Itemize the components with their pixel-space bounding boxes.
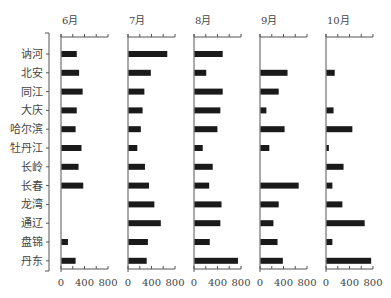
bar [261,107,267,113]
bar [261,183,299,189]
category-label: 丹东 [21,255,43,268]
bar [261,258,283,264]
bar [129,51,168,57]
category-label: 长春 [21,180,43,193]
x-tick-label: 0 [257,277,263,288]
category-label: 长岭 [21,160,43,174]
x-tick-label: 800 [231,277,250,288]
chart: 讷河北安同江大庆哈尔滨牡丹江长岭长春龙湾通辽盘锦丹东6月04008007月040… [0,0,391,298]
bar [261,239,278,245]
bar [62,164,79,170]
bar [129,183,150,189]
bar [62,239,68,245]
bar [62,70,80,76]
bar [129,164,145,170]
bar [129,89,145,95]
bar [195,126,218,132]
panel-title: 9月 [261,15,277,26]
x-tick-label: 0 [58,277,64,288]
bar [62,126,76,132]
bar [261,220,274,226]
x-tick-label: 800 [363,277,382,288]
category-label: 大庆 [21,103,43,117]
bar [327,126,353,132]
bar [195,201,222,207]
category-label: 牡丹江 [10,141,43,155]
bar [129,220,161,226]
x-tick-label: 800 [165,277,184,288]
bar [327,183,333,189]
bar [129,239,148,245]
bar [327,258,372,264]
category-label: 哈尔滨 [10,122,43,136]
bar [195,239,210,245]
x-tick-label: 400 [142,277,161,288]
bar [261,201,279,207]
bar [129,126,141,132]
bar [62,107,77,113]
bar [195,107,221,113]
bar [327,145,329,151]
panel-title: 8月 [195,15,211,26]
bar [62,258,76,264]
bar [261,126,285,132]
bar [195,70,207,76]
bar [327,70,335,76]
panel-title: 10月 [327,15,350,26]
bar [195,164,213,170]
category-label: 讷河 [21,48,43,61]
x-tick-label: 400 [340,277,359,288]
bar [195,145,203,151]
panel-title: 7月 [129,15,145,26]
bar [62,145,82,151]
bar [129,107,143,113]
category-label: 龙湾 [21,197,43,211]
bar [261,89,279,95]
category-label: 同江 [21,86,43,99]
bar [195,51,223,57]
bar [327,201,343,207]
category-label: 北安 [21,66,43,80]
x-tick-label: 400 [75,277,94,288]
x-tick-label: 800 [297,277,316,288]
bar [195,89,223,95]
x-tick-label: 0 [323,277,329,288]
x-tick-label: 800 [98,277,117,288]
bar [62,183,84,189]
bar [129,201,155,207]
bar [129,70,151,76]
bar [327,239,333,245]
x-tick-label: 0 [125,277,131,288]
bar [327,164,344,170]
bar [129,145,138,151]
bar [195,220,221,226]
bar [261,145,270,151]
bar [327,107,334,113]
category-label: 通辽 [21,217,43,230]
panel-title: 6月 [62,15,78,26]
x-tick-label: 400 [274,277,293,288]
bar [195,183,210,189]
bar [261,70,288,76]
bar [62,51,77,57]
bar [129,258,147,264]
bar [195,258,238,264]
x-tick-label: 0 [191,277,197,288]
bar [62,89,83,95]
bar [327,220,365,226]
category-label: 盘锦 [21,235,43,249]
x-tick-label: 400 [208,277,227,288]
